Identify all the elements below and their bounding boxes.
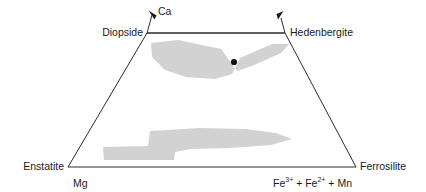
fe-apex-label: Fe3+ + Fe2+ + Mn	[273, 176, 352, 189]
ca-arrowhead-icon	[149, 11, 157, 20]
diagram-canvas: Ca Diopside Hedenbergite Enstatite Ferro…	[0, 0, 426, 192]
fe-axis-arrow-shaft	[281, 18, 285, 33]
fe-apex-label-mid: + Fe	[293, 177, 317, 189]
frame-right-edge	[285, 33, 356, 167]
fe-apex-label-sup1: 3+	[285, 176, 293, 183]
pigeonite-orthopyroxene-field	[103, 128, 292, 160]
ferrosilite-label: Ferrosilite	[360, 160, 406, 172]
mg-apex-label: Mg	[73, 177, 88, 189]
fe-arrowhead-icon	[277, 11, 284, 20]
fe-apex-label-base: Fe	[273, 177, 285, 189]
fe-apex-label-sup2: 2+	[317, 176, 325, 183]
ca-apex-label: Ca	[158, 5, 172, 17]
ca-axis-arrow-shaft	[147, 15, 152, 33]
enstatite-label: Enstatite	[23, 160, 64, 172]
field-group	[103, 40, 292, 160]
hedenbergite-label: Hedenbergite	[290, 26, 353, 38]
augite-field	[151, 40, 289, 79]
diopside-label: Diopside	[102, 26, 143, 38]
sample-point	[231, 59, 237, 65]
pyroxene-quadrilateral-diagram: Ca Diopside Hedenbergite Enstatite Ferro…	[0, 0, 426, 192]
fe-apex-label-tail: + Mn	[325, 177, 352, 189]
